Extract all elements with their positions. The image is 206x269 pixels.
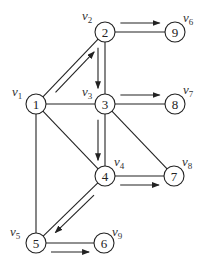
node-8: 8 bbox=[165, 94, 185, 114]
node-6: 6 bbox=[94, 233, 114, 253]
node-number: 2 bbox=[102, 25, 109, 40]
node-number: 5 bbox=[33, 236, 40, 251]
node-number: 7 bbox=[171, 169, 178, 184]
vertex-label-v3: v3 bbox=[82, 84, 93, 101]
graph-diagram: 123456789 v1v2v3v4v5v9v8v7v6 bbox=[0, 0, 206, 269]
edge-1-2 bbox=[43, 39, 98, 97]
vertex-label-v5: v5 bbox=[10, 224, 21, 241]
node-number: 9 bbox=[172, 25, 179, 40]
vertex-label-v4: v4 bbox=[114, 154, 125, 171]
node-1: 1 bbox=[26, 94, 46, 114]
node-7: 7 bbox=[164, 166, 184, 186]
vertex-label-v6: v6 bbox=[183, 10, 194, 27]
arrow-4-5-icon bbox=[55, 195, 94, 233]
vertex-label-v1: v1 bbox=[12, 84, 22, 101]
node-number: 3 bbox=[102, 97, 109, 112]
node-3: 3 bbox=[95, 94, 115, 114]
arrow-1-2-icon bbox=[56, 52, 95, 92]
vertex-label-v7: v7 bbox=[183, 82, 194, 99]
vertex-labels-layer: v1v2v3v4v5v9v8v7v6 bbox=[10, 8, 194, 241]
node-number: 4 bbox=[102, 169, 109, 184]
node-9: 9 bbox=[165, 22, 185, 42]
edge-1-4 bbox=[43, 111, 98, 169]
node-5: 5 bbox=[26, 233, 46, 253]
edge-4-5 bbox=[43, 183, 98, 236]
vertex-label-v2: v2 bbox=[82, 8, 92, 25]
node-number: 6 bbox=[101, 236, 108, 251]
edges-layer bbox=[36, 32, 167, 243]
node-number: 1 bbox=[33, 97, 40, 112]
vertex-label-v9: v9 bbox=[112, 224, 123, 241]
node-2: 2 bbox=[95, 22, 115, 42]
node-4: 4 bbox=[95, 166, 115, 186]
node-number: 8 bbox=[172, 97, 179, 112]
vertex-label-v8: v8 bbox=[182, 154, 193, 171]
